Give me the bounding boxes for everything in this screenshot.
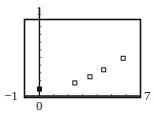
data-point <box>37 87 41 91</box>
origin-label: 0 <box>36 99 43 112</box>
ymax-label: 1 <box>36 4 43 17</box>
scatter-plot <box>0 0 154 114</box>
data-point <box>121 56 125 60</box>
data-points <box>37 56 125 91</box>
data-point <box>102 68 106 72</box>
axes <box>25 8 141 96</box>
xmin-label: −1 <box>4 89 18 102</box>
data-point <box>73 81 77 85</box>
xmax-label: 7 <box>144 89 151 102</box>
data-point <box>88 75 92 79</box>
